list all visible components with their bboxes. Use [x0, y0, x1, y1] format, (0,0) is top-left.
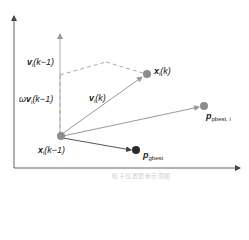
label-v-prev: vi(k−1)	[27, 58, 54, 68]
pbest-vector	[63, 107, 199, 136]
node-gbest	[132, 146, 140, 154]
node-x-prev	[57, 132, 65, 140]
v-curr-vector	[62, 77, 142, 134]
dashed-line-1	[60, 62, 106, 75]
label-v-curr: vi(k)	[89, 94, 106, 104]
gbest-vector	[63, 138, 131, 150]
figure-caption: 粒子位置更新示意图	[112, 171, 171, 180]
node-x-curr	[143, 70, 151, 78]
label-omega-v-prev: ωvi(k−1)	[19, 95, 53, 105]
label-pbest: ppbest, i	[206, 112, 231, 122]
node-pbest	[200, 102, 208, 110]
label-gbest: pgbest	[143, 151, 163, 161]
dashed-line-2	[106, 62, 146, 74]
label-x-curr: xi(k)	[154, 67, 171, 77]
label-x-prev: xi(k−1)	[38, 146, 65, 156]
